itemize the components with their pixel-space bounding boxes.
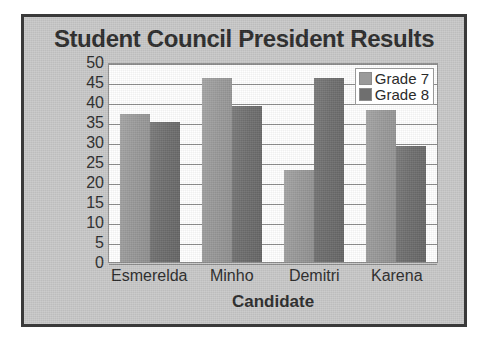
bar-esmerelda-grade-8: [150, 122, 180, 262]
legend-swatch-icon: [359, 88, 372, 101]
y-tick-label: 20: [62, 175, 104, 191]
legend-swatch-icon: [359, 72, 372, 85]
x-tick-label: Demitri: [273, 267, 356, 289]
legend-item: Grade 7: [359, 71, 429, 86]
chart-card: Student Council President Results Number…: [21, 14, 467, 327]
y-tick-label: 10: [62, 215, 104, 231]
x-axis-tick-labels: EsmereldaMinhoDemitriKarena: [108, 267, 438, 289]
y-tick-label: 30: [62, 135, 104, 151]
y-tick-label: 25: [62, 155, 104, 171]
bar-demitri-grade-7: [284, 170, 314, 262]
chart-title: Student Council President Results: [24, 25, 464, 53]
bar-group: [273, 64, 355, 262]
x-tick-label: Esmerelda: [108, 267, 191, 289]
legend-item: Grade 8: [359, 87, 429, 102]
y-tick-label: 40: [62, 95, 104, 111]
bar-esmerelda-grade-7: [120, 114, 150, 262]
y-tick-label: 15: [62, 195, 104, 211]
x-tick-label: Karena: [356, 267, 439, 289]
chart-screenshot: Student Council President Results Number…: [0, 0, 490, 364]
gridline: [109, 264, 437, 265]
bar-karena-grade-8: [396, 146, 426, 262]
y-axis-tick-labels: 50454035302520151050: [62, 57, 104, 273]
plot-area: Grade 7Grade 8: [108, 63, 438, 263]
x-axis-title: Candidate: [108, 292, 438, 312]
y-tick-label: 35: [62, 115, 104, 131]
bar-karena-grade-7: [366, 110, 396, 262]
legend-label: Grade 7: [375, 71, 429, 86]
bar-minho-grade-8: [232, 106, 262, 262]
y-tick-label: 5: [62, 235, 104, 251]
y-tick-label: 50: [62, 55, 104, 71]
bar-minho-grade-7: [202, 78, 232, 262]
bar-group: [109, 64, 191, 262]
legend-label: Grade 8: [375, 87, 429, 102]
bar-demitri-grade-8: [314, 78, 344, 262]
y-tick-label: 0: [62, 255, 104, 271]
y-tick-label: 45: [62, 75, 104, 91]
x-tick-label: Minho: [191, 267, 274, 289]
legend: Grade 7Grade 8: [355, 68, 434, 105]
bar-group: [191, 64, 273, 262]
